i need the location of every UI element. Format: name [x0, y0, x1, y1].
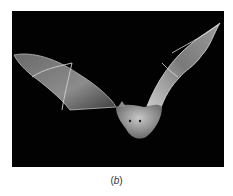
bat-eye — [139, 120, 141, 122]
left-wing — [14, 54, 116, 110]
bat-eye — [129, 120, 131, 122]
bat-illustration — [12, 11, 224, 167]
figure-caption: (b) — [0, 175, 233, 186]
bat-photo — [12, 11, 224, 167]
caption-close: ) — [119, 175, 122, 186]
bat-ear — [118, 101, 126, 107]
right-wing — [147, 23, 220, 111]
